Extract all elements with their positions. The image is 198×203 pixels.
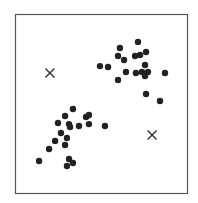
data-point bbox=[143, 49, 149, 55]
data-point bbox=[67, 124, 73, 130]
data-point bbox=[143, 91, 149, 97]
data-point bbox=[64, 135, 70, 141]
data-point bbox=[76, 123, 82, 129]
data-point bbox=[55, 120, 61, 126]
data-point bbox=[86, 112, 92, 118]
data-point bbox=[86, 121, 92, 127]
data-point bbox=[64, 163, 70, 169]
data-point bbox=[58, 130, 64, 136]
data-point bbox=[97, 63, 103, 69]
data-point bbox=[70, 106, 76, 112]
data-point bbox=[135, 39, 141, 45]
data-point bbox=[105, 64, 111, 70]
data-point bbox=[123, 69, 129, 75]
data-point bbox=[46, 146, 52, 152]
data-point bbox=[102, 123, 108, 129]
data-point bbox=[137, 52, 143, 58]
data-point bbox=[142, 73, 148, 79]
scatter-plot bbox=[0, 0, 198, 203]
data-point bbox=[162, 70, 168, 76]
data-point bbox=[62, 142, 68, 148]
data-point bbox=[115, 77, 121, 83]
data-point bbox=[115, 53, 121, 59]
data-point bbox=[157, 98, 163, 104]
plot-frame bbox=[16, 15, 188, 194]
data-point bbox=[70, 160, 76, 166]
data-point bbox=[36, 158, 42, 164]
data-point bbox=[142, 62, 148, 68]
data-point bbox=[121, 57, 127, 63]
data-point bbox=[133, 70, 139, 76]
data-point bbox=[117, 45, 123, 51]
data-point bbox=[62, 113, 68, 119]
data-point bbox=[52, 138, 58, 144]
